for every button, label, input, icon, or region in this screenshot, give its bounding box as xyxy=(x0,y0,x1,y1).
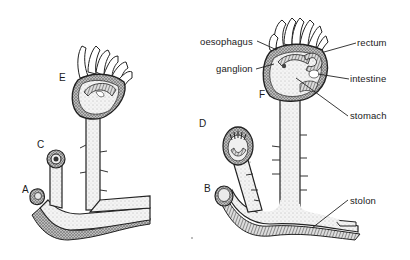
label-stage-D: D xyxy=(199,119,206,129)
label-ganglion: ganglion xyxy=(216,64,253,74)
zooid-E xyxy=(72,46,132,119)
left-colony xyxy=(30,46,150,240)
right-colony xyxy=(215,18,360,240)
label-rectum: rectum xyxy=(357,38,387,48)
stalk-F xyxy=(280,98,300,214)
zooid-D xyxy=(223,127,253,165)
label-intestine: intestine xyxy=(350,74,386,84)
label-stage-A: A xyxy=(22,185,29,195)
leader-rectum xyxy=(324,43,356,52)
label-stolon: stolon xyxy=(350,196,376,206)
label-stage-E: E xyxy=(59,73,66,83)
stalk-C xyxy=(50,166,62,208)
label-stage-C: C xyxy=(37,140,44,150)
label-stage-F: F xyxy=(259,90,265,100)
label-stomach: stomach xyxy=(350,111,387,121)
bud-B xyxy=(215,186,233,206)
label-stage-B: B xyxy=(204,184,211,194)
label-oesophagus: oesophagus xyxy=(200,37,253,47)
zooid-F xyxy=(263,18,328,101)
